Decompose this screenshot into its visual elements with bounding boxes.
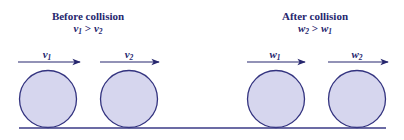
ball-1-after — [248, 71, 305, 128]
collision-diagram: Before collision v1 > v2 After collision… — [0, 0, 404, 140]
before-title: Before collision — [52, 10, 124, 22]
velocity-arrow-w2: w2 — [328, 48, 388, 62]
before-condition: v1 > v2 — [73, 22, 102, 36]
velocity-arrow-v1: v1 — [18, 48, 80, 62]
arrow-label: w1 — [269, 48, 280, 62]
arrow-label: w2 — [351, 48, 362, 62]
velocity-arrow-w1: w1 — [247, 48, 305, 62]
velocity-arrow-v2: v2 — [100, 48, 159, 62]
after-title: After collision — [282, 10, 348, 22]
ball-2-after — [329, 71, 386, 128]
ball-2-before — [101, 71, 158, 128]
arrow-label: v2 — [125, 48, 134, 62]
cond-op: > — [82, 22, 94, 34]
ball-1-before — [20, 71, 77, 128]
cond-rhs-sub: 2 — [98, 27, 103, 36]
diagram-svg: Before collision v1 > v2 After collision… — [0, 0, 404, 140]
after-heading: After collision w2 > w1 — [282, 10, 348, 36]
before-heading: Before collision v1 > v2 — [52, 10, 124, 36]
cond-rhs-sub: 1 — [328, 27, 332, 36]
cond-op: > — [309, 22, 321, 34]
after-condition: w2 > w1 — [298, 22, 332, 36]
arrow-label: v1 — [43, 48, 52, 62]
